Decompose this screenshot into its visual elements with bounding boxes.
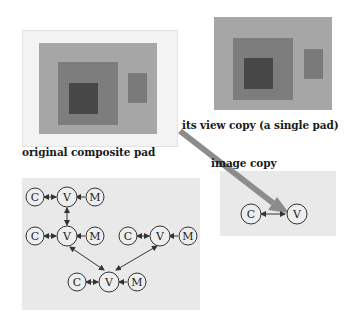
node-c[interactable]: C — [26, 227, 44, 245]
node-v[interactable]: V — [150, 226, 170, 246]
svg-text:M: M — [89, 191, 100, 204]
svg-text:M: M — [131, 276, 142, 289]
node-c[interactable]: C — [68, 273, 86, 291]
svg-text:C: C — [73, 276, 81, 289]
node-m[interactable]: M — [179, 227, 197, 245]
svg-text:V: V — [104, 276, 114, 289]
node-m[interactable]: M — [86, 227, 104, 245]
svg-text:M: M — [182, 230, 193, 243]
node-v[interactable]: V — [57, 187, 77, 207]
svg-text:M: M — [89, 230, 100, 243]
svg-text:V: V — [292, 208, 302, 221]
copy-arrow — [180, 131, 289, 213]
node-m[interactable]: M — [128, 273, 146, 291]
image-copy-node-c[interactable]: C — [241, 204, 261, 224]
svg-text:V: V — [155, 230, 165, 243]
svg-text:C: C — [124, 230, 132, 243]
node-m[interactable]: M — [86, 188, 104, 206]
image-copy-node-v[interactable]: V — [287, 204, 307, 224]
svg-text:C: C — [31, 191, 39, 204]
svg-text:C: C — [247, 208, 255, 221]
svg-text:C: C — [31, 230, 39, 243]
node-c[interactable]: C — [119, 227, 137, 245]
diagram-svg: C V M C V M C V M C V M C V — [0, 0, 362, 328]
node-v[interactable]: V — [99, 272, 119, 292]
svg-text:V: V — [62, 191, 72, 204]
node-v[interactable]: V — [57, 226, 77, 246]
svg-text:V: V — [62, 230, 72, 243]
node-c[interactable]: C — [26, 188, 44, 206]
image-copy-label: image copy — [211, 157, 276, 169]
